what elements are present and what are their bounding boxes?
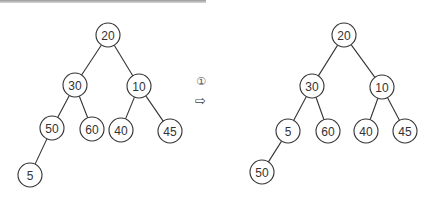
node-label: 30 (305, 80, 319, 94)
node-label: 45 (398, 125, 412, 139)
tree-node-before-20: 20 (96, 23, 120, 47)
tree-edge-after (388, 98, 400, 121)
node-label: 10 (132, 80, 146, 94)
tree-edge-after (318, 45, 337, 76)
tree-edge-after (351, 45, 375, 78)
tree-node-before-30: 30 (63, 73, 87, 97)
tree-node-after-50: 50 (250, 160, 274, 184)
tree-node-after-40: 40 (354, 119, 378, 143)
tree-node-after-45: 45 (393, 119, 417, 143)
node-label: 20 (337, 29, 351, 43)
node-label: 45 (163, 125, 177, 139)
node-label: 30 (68, 79, 82, 93)
tree-edges (35, 45, 399, 164)
tree-diagram-canvas: 203010506040455203010560404550 (0, 0, 435, 200)
tree-edge-after (294, 97, 307, 121)
tree-edge-before (58, 96, 70, 118)
node-label: 40 (359, 125, 373, 139)
tree-edge-before (146, 96, 163, 121)
tree-node-before-45: 45 (158, 119, 182, 143)
tree-edge-before (114, 45, 133, 75)
tree-edge-before (82, 45, 102, 75)
tree-node-before-50: 50 (40, 116, 64, 140)
tree-node-after-20: 20 (332, 23, 356, 47)
node-label: 50 (255, 166, 269, 180)
tree-nodes: 203010506040455203010560404550 (18, 23, 417, 187)
tree-edge-before (79, 96, 87, 118)
tree-edge-after (268, 141, 281, 162)
tree-edge-after (316, 97, 324, 119)
node-label: 40 (114, 124, 128, 138)
node-label: 5 (27, 169, 34, 183)
node-label: 50 (45, 122, 59, 136)
tree-edge-after (370, 98, 378, 119)
tree-node-after-30: 30 (300, 74, 324, 98)
node-label: 60 (321, 125, 335, 139)
tree-node-before-60: 60 (80, 117, 104, 141)
node-label: 10 (375, 81, 389, 95)
tree-node-before-5: 5 (18, 163, 42, 187)
right-arrow-icon: ⇨ (195, 93, 206, 108)
tree-node-after-60: 60 (316, 119, 340, 143)
tree-node-before-10: 10 (127, 74, 151, 98)
tree-node-before-40: 40 (109, 118, 133, 142)
tree-edge-before (35, 139, 47, 164)
node-label: 60 (85, 123, 99, 137)
step-number-label: ① (196, 75, 206, 88)
tree-node-after-10: 10 (370, 75, 394, 99)
tree-node-after-5: 5 (276, 119, 300, 143)
node-label: 5 (285, 125, 292, 139)
tree-edge-before (126, 97, 135, 119)
node-label: 20 (101, 29, 115, 43)
